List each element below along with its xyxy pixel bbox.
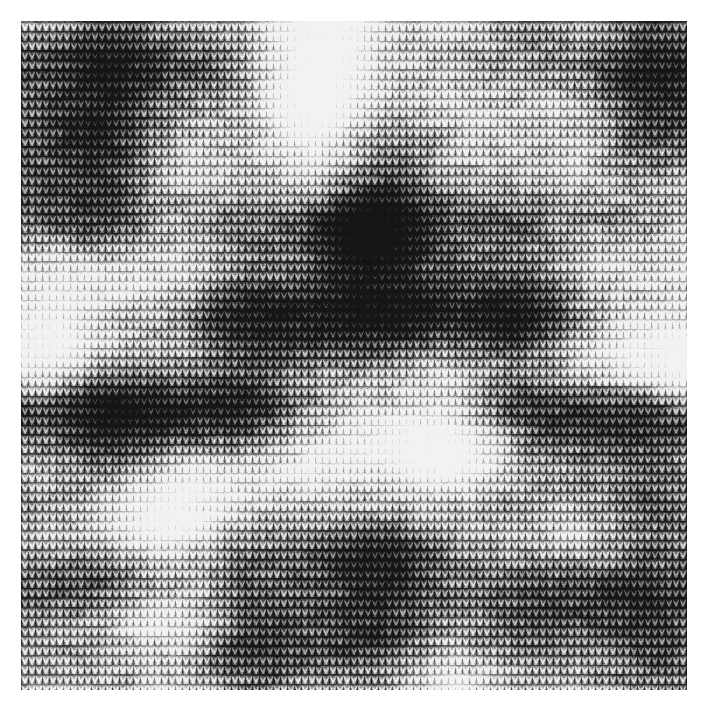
margin-top xyxy=(0,0,707,21)
margin-bottom xyxy=(0,690,707,712)
margin-left xyxy=(0,0,21,712)
margin-right xyxy=(687,0,707,712)
page-root xyxy=(0,0,707,712)
knit-texture-canvas xyxy=(21,21,687,690)
knit-fabric-swatch xyxy=(21,21,687,690)
